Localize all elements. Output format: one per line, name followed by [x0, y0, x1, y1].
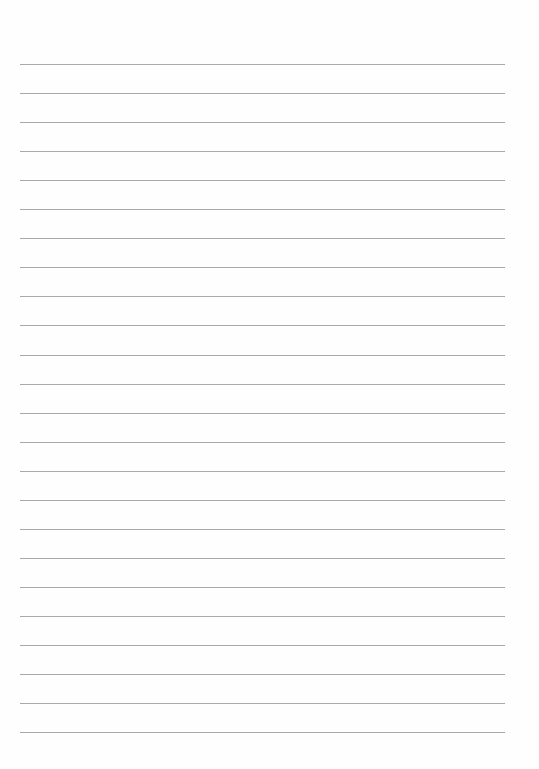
ruled-line	[20, 587, 505, 588]
ruled-line	[20, 645, 505, 646]
ruled-line	[20, 151, 505, 152]
ruled-line	[20, 558, 505, 559]
ruled-line	[20, 732, 505, 733]
ruled-line	[20, 703, 505, 704]
ruled-line	[20, 529, 505, 530]
ruled-line	[20, 267, 505, 268]
ruled-line	[20, 238, 505, 239]
ruled-line	[20, 674, 505, 675]
ruled-line	[20, 442, 505, 443]
ruled-line	[20, 500, 505, 501]
ruled-line	[20, 413, 505, 414]
ruled-line	[20, 209, 505, 210]
ruled-line	[20, 64, 505, 65]
ruled-line	[20, 180, 505, 181]
ruled-line	[20, 355, 505, 356]
lined-paper-page	[0, 0, 539, 769]
ruled-line	[20, 122, 505, 123]
ruled-line	[20, 471, 505, 472]
ruled-line	[20, 325, 505, 326]
ruled-line	[20, 616, 505, 617]
ruled-line	[20, 384, 505, 385]
ruled-line	[20, 296, 505, 297]
ruled-line	[20, 93, 505, 94]
